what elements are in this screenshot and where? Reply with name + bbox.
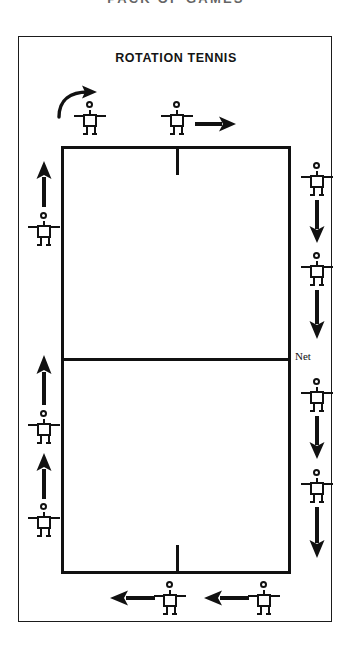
- net-label: Net: [295, 350, 311, 362]
- figure-foot-left: [310, 501, 315, 503]
- figure-torso: [83, 114, 97, 127]
- arrow-down-icon: [309, 416, 325, 460]
- center-service-mark-bottom: [176, 545, 179, 572]
- figure-torso: [37, 423, 51, 436]
- arrow-down-icon: [309, 200, 325, 244]
- figure-torso: [257, 594, 271, 607]
- figure-foot-left: [37, 442, 42, 444]
- figure-head: [313, 252, 320, 259]
- figure-foot-right: [266, 613, 271, 615]
- stick-figure-icon: [300, 162, 334, 196]
- figure-foot-left: [83, 133, 88, 135]
- arrow-right-icon: [195, 116, 237, 132]
- figure-foot-left: [310, 284, 315, 286]
- figure-head: [40, 212, 47, 219]
- figure-head: [40, 410, 47, 417]
- figure-frame: ROTATION TENNIS Net: [18, 36, 332, 622]
- figure-torso: [310, 175, 324, 188]
- arrow-left-icon: [110, 590, 155, 606]
- stick-figure-icon: [27, 503, 61, 537]
- arrow-down-icon: [309, 507, 325, 559]
- diagram-title: ROTATION TENNIS: [19, 51, 333, 65]
- figure-torso: [310, 265, 324, 278]
- figure-head: [313, 378, 320, 385]
- page-canvas: PACK OF GAMES ROTATION TENNIS Net: [0, 0, 352, 652]
- center-service-mark-top: [176, 148, 179, 175]
- figure-head: [166, 581, 173, 588]
- figure-head: [86, 101, 93, 108]
- figure-foot-left: [163, 613, 168, 615]
- stick-figure-icon: [27, 410, 61, 444]
- figure-foot-left: [37, 535, 42, 537]
- stick-figure-icon: [153, 581, 187, 615]
- arrow-down-icon: [309, 290, 325, 340]
- figure-head: [260, 581, 267, 588]
- figure-head: [313, 162, 320, 169]
- stick-figure-icon: [27, 212, 61, 246]
- figure-foot-right: [319, 284, 324, 286]
- stick-figure-icon: [247, 581, 281, 615]
- figure-foot-right: [319, 194, 324, 196]
- figure-foot-left: [310, 410, 315, 412]
- figure-foot-right: [46, 535, 51, 537]
- stick-figure-icon: [160, 101, 194, 135]
- figure-head: [173, 101, 180, 108]
- arrow-left-icon: [204, 590, 249, 606]
- figure-foot-left: [310, 194, 315, 196]
- stick-figure-icon: [300, 378, 334, 412]
- figure-torso: [163, 594, 177, 607]
- figure-torso: [37, 516, 51, 529]
- figure-torso: [310, 391, 324, 404]
- figure-foot-right: [319, 501, 324, 503]
- stick-figure-icon: [300, 469, 334, 503]
- figure-foot-right: [46, 442, 51, 444]
- figure-torso: [37, 225, 51, 238]
- stick-figure-icon: [73, 101, 107, 135]
- figure-head: [313, 469, 320, 476]
- figure-foot-left: [170, 133, 175, 135]
- arrow-up-icon: [36, 355, 52, 405]
- figure-torso: [170, 114, 184, 127]
- figure-foot-right: [172, 613, 177, 615]
- arrow-up-icon: [36, 161, 52, 207]
- figure-foot-right: [92, 133, 97, 135]
- stick-figure-icon: [300, 252, 334, 286]
- figure-foot-right: [179, 133, 184, 135]
- arrow-up-icon: [36, 453, 52, 499]
- figure-foot-right: [319, 410, 324, 412]
- running-head: PACK OF GAMES: [0, 0, 352, 4]
- figure-foot-right: [46, 244, 51, 246]
- figure-foot-left: [37, 244, 42, 246]
- figure-head: [40, 503, 47, 510]
- figure-foot-left: [257, 613, 262, 615]
- figure-torso: [310, 482, 324, 495]
- net-line: [61, 358, 291, 361]
